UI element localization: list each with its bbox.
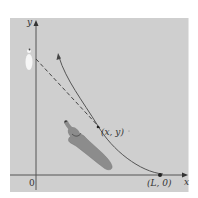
x-axis-label: x: [184, 178, 189, 187]
y-axis-arrow-icon: [34, 20, 39, 26]
y-axis: [34, 20, 39, 190]
person-icon: [26, 49, 33, 70]
current-point-label: (x, y): [101, 128, 124, 137]
decorative-dot: [128, 130, 129, 131]
curve-arrow-icon: [57, 53, 62, 60]
diagram-canvas: [0, 0, 198, 198]
y-axis-label: y: [27, 18, 32, 27]
origin-label: 0: [29, 179, 35, 188]
pursuit-curve: [59, 57, 163, 174]
current-point-marker: [97, 126, 100, 129]
start-point-marker: [158, 173, 162, 177]
tangent-dashed-line: [36, 59, 100, 128]
start-point-label: (L, 0): [147, 179, 171, 188]
